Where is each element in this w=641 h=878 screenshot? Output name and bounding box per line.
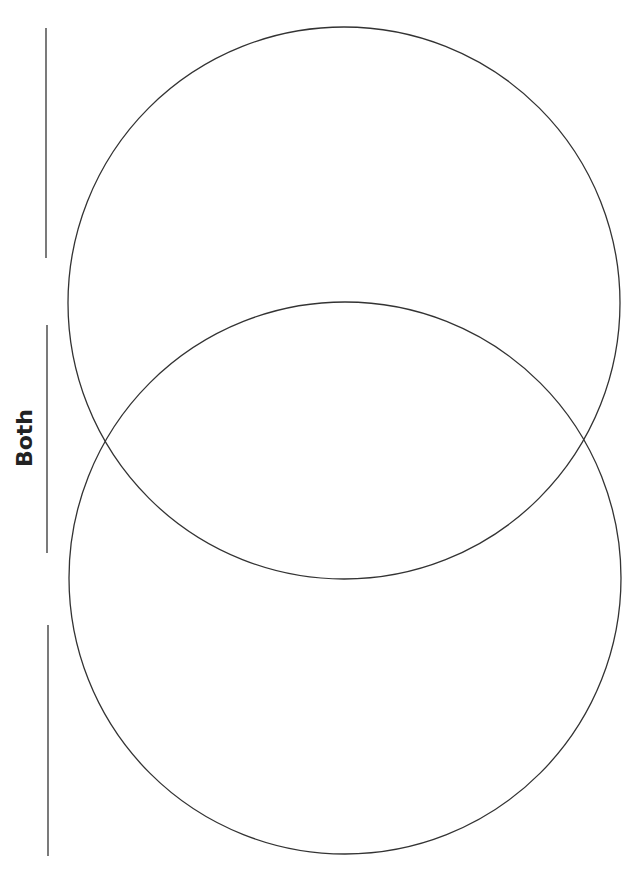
bottom-circle — [69, 302, 621, 854]
both-label: Both — [12, 409, 37, 467]
top-circle — [68, 27, 620, 579]
venn-diagram — [0, 0, 641, 878]
